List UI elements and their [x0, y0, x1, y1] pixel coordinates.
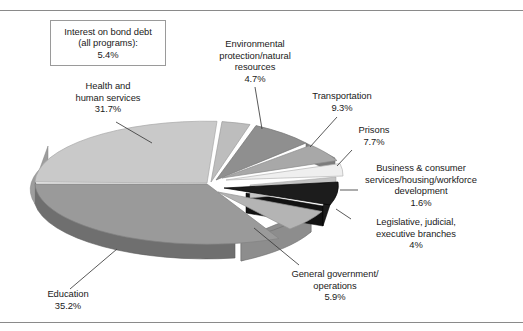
leader-environmental [255, 87, 262, 129]
label-health-human-services: Health and human services 31.7% [52, 80, 164, 115]
leader-legislative [336, 209, 351, 219]
label-prisons: Prisons 7.7% [344, 124, 404, 147]
pie-chart-figure: Interest on bond debt (all programs): 5.… [0, 0, 523, 331]
label-legislative-judicial-executive: Legislative, judicial, executive branche… [352, 216, 480, 251]
label-education: Education 35.2% [22, 288, 114, 311]
slice-top-health-human-services [35, 121, 217, 183]
leader-transportation [310, 117, 337, 147]
label-environmental-protection: Environmental protection/natural resourc… [196, 38, 314, 84]
leader-education [70, 249, 117, 289]
interest-on-bond-debt-callout: Interest on bond debt (all programs): 5.… [50, 20, 166, 66]
label-general-government-operations: General government/ operations 5.9% [272, 268, 398, 303]
label-business-consumer-services: Business & consumer services/housing/wor… [338, 162, 504, 208]
label-transportation: Transportation 9.3% [296, 90, 388, 113]
interest-on-bond-debt-text: Interest on bond debt (all programs): 5.… [64, 26, 152, 61]
